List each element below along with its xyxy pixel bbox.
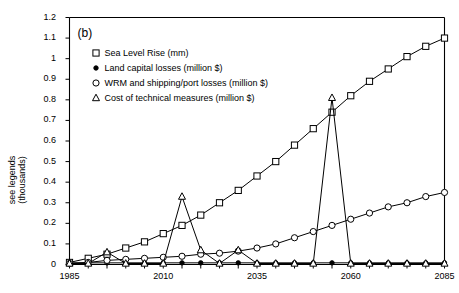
legend-label: Cost of technical measures (million $)	[105, 93, 255, 103]
legend-symbol	[92, 94, 99, 101]
chart-legend: Sea Level Rise (mm)Land capital losses (…	[87, 46, 269, 106]
legend-marker-icon	[87, 62, 105, 74]
legend-label: WRM and shipping/port losses (million $)	[105, 78, 269, 88]
legend-label: Land capital losses (million $)	[105, 63, 223, 73]
legend-item: Land capital losses (million $)	[87, 61, 269, 76]
legend-marker-icon	[87, 47, 105, 59]
legend-marker-icon	[87, 92, 105, 104]
legend-item: WRM and shipping/port losses (million $)	[87, 76, 269, 91]
x-tick-label: 2085	[425, 272, 459, 281]
legend-symbol	[93, 66, 97, 70]
x-tick-label: 1985	[50, 272, 90, 281]
panel-label: (b)	[78, 26, 93, 40]
legend-symbol	[92, 80, 98, 86]
legend-label: Sea Level Rise (mm)	[105, 48, 189, 58]
marker-triangle	[92, 94, 99, 101]
marker-circle	[92, 80, 98, 86]
legend-marker-icon	[87, 77, 105, 89]
legend-item: Cost of technical measures (million $)	[87, 91, 269, 106]
x-tick-label: 2060	[331, 272, 371, 281]
legend-symbol	[92, 50, 98, 56]
legend-item: Sea Level Rise (mm)	[87, 46, 269, 61]
x-tick-label: 2010	[143, 272, 183, 281]
marker-square	[92, 50, 98, 56]
x-tick-label: 2035	[237, 272, 277, 281]
marker-dot	[93, 66, 97, 70]
